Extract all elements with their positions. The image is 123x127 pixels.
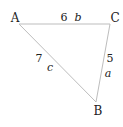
vertex-label-c: C [110,11,119,25]
side-name-b: b [74,11,81,24]
vertex-label-b: B [94,104,103,118]
side-length-b: 6 [61,11,68,24]
side-length-a: 5 [107,52,114,65]
side-name-c: c [47,61,53,74]
vertex-label-a: A [10,11,20,25]
side-name-a: a [105,67,112,80]
triangle-diagram: A C B 6 b 7 c 5 a [0,0,123,127]
triangle-shape [19,24,110,102]
side-length-c: 7 [36,52,43,65]
